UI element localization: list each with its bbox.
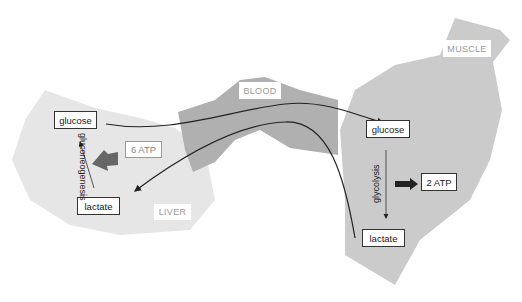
muscle-lactate-box: lactate (362, 229, 405, 247)
blood-label: BLOOD (239, 82, 281, 99)
gluconeogenesis-label: gluconeogenesis (78, 133, 88, 201)
glycolysis-label: glycolysis (371, 164, 381, 203)
liver-glucose-box: glucose (54, 111, 97, 129)
muscle-glucose-box: glucose (366, 120, 410, 138)
liver-label: LIVER (154, 204, 191, 220)
muscle-label: MUSCLE (443, 40, 491, 57)
muscle-atp-box: 2 ATP (421, 173, 457, 191)
liver-atp-box: 6 ATP (125, 141, 162, 158)
